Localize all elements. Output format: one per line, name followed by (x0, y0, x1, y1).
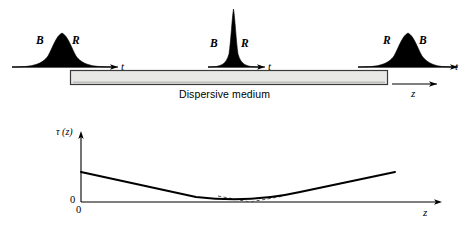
input-pulse-label-red: R (72, 35, 80, 47)
tau-axis-zero-label: 0 (70, 195, 75, 206)
tau-plot-axes (78, 131, 442, 205)
output-pulse-label-red: R (383, 35, 391, 47)
z-axis-label-lower: z (423, 207, 427, 218)
dispersive-medium-caption: Dispersive medium (179, 89, 270, 100)
compressed-pulse-label-blue: B (210, 38, 218, 50)
input-pulse-graphic (12, 33, 118, 70)
compressed-pulse-time-axis-label: t (268, 61, 271, 72)
tau-curve (81, 172, 395, 199)
propagation-axis-arrow-upper (392, 81, 437, 86)
tau-axis-label: τ (z) (56, 127, 73, 137)
compressed-pulse-label-red: R (241, 38, 249, 50)
input-pulse-time-axis-label: t (121, 61, 124, 72)
propagation-axis-label-upper: z (411, 88, 415, 99)
dispersive-medium-bar (71, 71, 388, 85)
output-pulse-graphic (358, 33, 458, 70)
plot-origin-label: 0 (76, 205, 81, 216)
output-pulse-label-blue: B (419, 35, 427, 47)
output-pulse-time-axis-label: t (455, 61, 458, 72)
dispersive-pulse-figure: B R t B R t R B t Dispersive medium z τ … (0, 0, 467, 230)
input-pulse-label-blue: B (36, 35, 44, 47)
